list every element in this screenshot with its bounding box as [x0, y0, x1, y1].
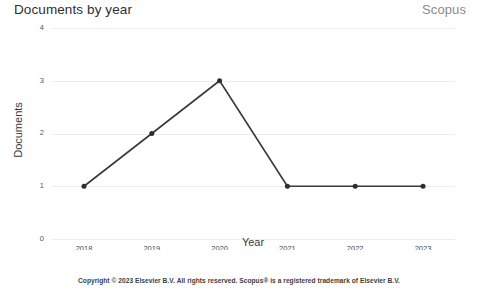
y-tick-label-2: 2 [40, 128, 44, 137]
y-tick-label-1: 1 [40, 181, 44, 190]
y-tick-label-3: 3 [40, 76, 44, 85]
y-axis-tick-labels: 01234 [40, 23, 44, 243]
y-tick-label-4: 4 [40, 23, 44, 32]
x-tick-label-2022: 2022 [347, 244, 364, 250]
line-chart-svg: 01234 201820192020202120222023 Documents… [0, 18, 478, 250]
data-point-2023[interactable] [421, 184, 426, 189]
x-axis-title: Year [242, 236, 265, 248]
x-tick-label-2020: 2020 [211, 244, 228, 250]
scopus-brand-label: Scopus [422, 2, 466, 18]
x-tick-label-2018: 2018 [76, 244, 93, 250]
x-tick-label-2021: 2021 [279, 244, 296, 250]
plot-area: 01234 201820192020202120222023 Documents… [0, 18, 478, 250]
data-point-2020[interactable] [217, 78, 222, 83]
copyright-footer: Copyright © 2023 Elsevier B.V. All right… [0, 277, 478, 284]
y-axis-title: Documents [12, 102, 24, 158]
data-point-2019[interactable] [149, 131, 154, 136]
page-title: Documents by year [14, 2, 132, 18]
x-tick-label-2023: 2023 [415, 244, 432, 250]
data-point-2022[interactable] [353, 184, 358, 189]
y-tick-label-0: 0 [40, 234, 44, 243]
scopus-documents-by-year-chart: Documents by year Scopus 01234 201820192… [0, 0, 478, 290]
data-point-2021[interactable] [285, 184, 290, 189]
x-tick-label-2019: 2019 [143, 244, 160, 250]
data-point-2018[interactable] [82, 184, 87, 189]
